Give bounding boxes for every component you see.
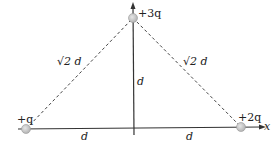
diagram-graphics bbox=[0, 0, 273, 145]
right-diagonal-distance: √2 d bbox=[183, 56, 208, 67]
vertical-distance: d bbox=[137, 76, 144, 87]
charge-top-label: +3q bbox=[138, 8, 161, 19]
x-axis-label: x bbox=[264, 121, 270, 132]
left-diagonal-distance: √2 d bbox=[57, 56, 82, 67]
x-axis-line bbox=[18, 127, 262, 129]
charge-right-label: +2q bbox=[238, 112, 261, 123]
diagram: +3q +q +2q √2 d √2 d d d d x bbox=[0, 0, 273, 145]
right-base-distance: d bbox=[186, 131, 193, 142]
charge-left-label: +q bbox=[17, 114, 33, 125]
left-base-distance: d bbox=[81, 131, 88, 142]
charge-top bbox=[129, 14, 138, 23]
y-axis-arrow-icon bbox=[131, 2, 136, 9]
right-diagonal-line bbox=[133, 18, 241, 127]
y-axis-line bbox=[133, 6, 134, 135]
left-diagonal-line bbox=[26, 18, 133, 129]
